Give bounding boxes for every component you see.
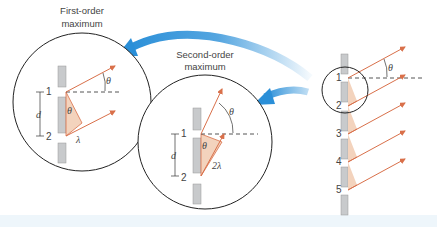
grating-block — [341, 139, 348, 159]
slit-block — [193, 108, 201, 130]
grating-block — [341, 167, 348, 187]
slit-4-label: 4 — [336, 156, 342, 167]
lambda-label: λ — [75, 134, 81, 145]
slit-block — [58, 66, 66, 87]
slit-block — [193, 138, 201, 173]
slit-block — [193, 184, 201, 204]
grating-block — [341, 54, 348, 74]
theta-label: θ — [106, 75, 111, 86]
two-lambda-label: 2λ — [212, 160, 222, 171]
grating-block — [341, 195, 348, 215]
grating-block — [341, 111, 348, 131]
second-order-inset: θ θ 2λ d 1 2 — [138, 75, 272, 209]
second-order-label-line1: Second-order — [176, 49, 234, 60]
grating-block — [341, 82, 348, 102]
theta-label: θ — [229, 106, 234, 117]
slit-5-label: 5 — [336, 184, 342, 195]
slit-2-label: 2 — [46, 131, 52, 142]
first-order-label-line2: maximum — [61, 18, 102, 29]
first-order-inset: θ θ λ d 1 2 — [13, 33, 151, 171]
ray-1 — [348, 47, 405, 78]
theta-label: θ — [388, 62, 393, 73]
slit-block — [58, 97, 66, 133]
theta-label-triangle: θ — [202, 140, 207, 151]
diffraction-grating: θ 1 2 3 4 5 — [322, 47, 425, 215]
slit-2-label: 2 — [336, 100, 342, 111]
slit-2-label: 2 — [181, 172, 187, 183]
diffraction-diagram: First-order maximum Second-order maximum… — [0, 0, 437, 227]
slit-block — [58, 143, 66, 163]
second-order-label-line2: maximum — [184, 61, 225, 72]
slit-1-label: 1 — [46, 86, 52, 97]
theta-label-triangle: θ — [67, 105, 72, 116]
slit-1-label: 1 — [336, 72, 342, 83]
slit-3-label: 3 — [336, 128, 342, 139]
blue-arrow-second-order — [253, 88, 308, 105]
first-order-label-line1: First-order — [60, 5, 104, 16]
slit-1-label: 1 — [181, 128, 187, 139]
